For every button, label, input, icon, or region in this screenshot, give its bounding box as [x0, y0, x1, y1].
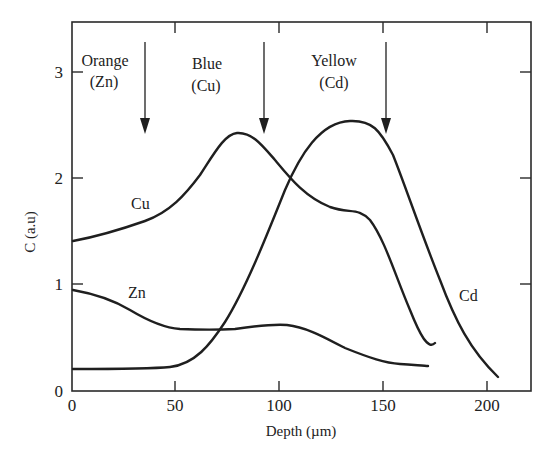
- x-tick-label: 0: [68, 396, 77, 415]
- x-tick-label: 150: [370, 396, 396, 415]
- annotation-yellow-line1: Yellow: [311, 52, 357, 69]
- y-ticks-left: [72, 72, 83, 284]
- arrow-down-icon: [140, 118, 150, 134]
- series-label-zn: Zn: [128, 284, 146, 301]
- y-tick-label: 1: [55, 275, 64, 294]
- annotation-orange-line2: (Zn): [90, 73, 118, 91]
- y-tick-label: 3: [55, 63, 64, 82]
- x-tick-labels: 0 50 100 150 200: [68, 396, 500, 415]
- x-tick-label: 100: [266, 396, 292, 415]
- series-label-cu: Cu: [131, 195, 150, 212]
- x-axis-title: Depth (µm): [266, 423, 337, 440]
- x-ticks-top: [175, 22, 487, 33]
- x-tick-label: 50: [167, 396, 184, 415]
- annotation-blue-line2: (Cu): [191, 77, 220, 95]
- y-tick-labels: 0 1 2 3: [55, 63, 64, 401]
- y-tick-label: 2: [55, 169, 64, 188]
- arrow-down-icon: [381, 118, 391, 134]
- cu-curve: [73, 133, 435, 345]
- x-tick-label: 200: [474, 396, 500, 415]
- annotation-yellow-line2: (Cd): [319, 74, 348, 92]
- y-axis-title: C (a.u): [22, 211, 39, 253]
- arrow-down-icon: [259, 118, 269, 134]
- series-label-cd: Cd: [459, 287, 478, 304]
- y-tick-label: 0: [55, 382, 64, 401]
- cd-curve: [73, 121, 498, 377]
- annotation-orange-zn: Orange (Zn): [81, 42, 150, 134]
- concentration-depth-chart: 0 50 100 150 200 0 1 2 3 Depth (µm) C (a…: [0, 0, 547, 462]
- annotation-blue-line1: Blue: [192, 55, 222, 72]
- annotation-orange-line1: Orange: [81, 52, 128, 70]
- annotation-blue-cu: Blue (Cu): [191, 42, 269, 134]
- zn-curve: [73, 290, 428, 366]
- y-ticks-right: [520, 72, 531, 284]
- x-ticks-bottom: [175, 381, 487, 391]
